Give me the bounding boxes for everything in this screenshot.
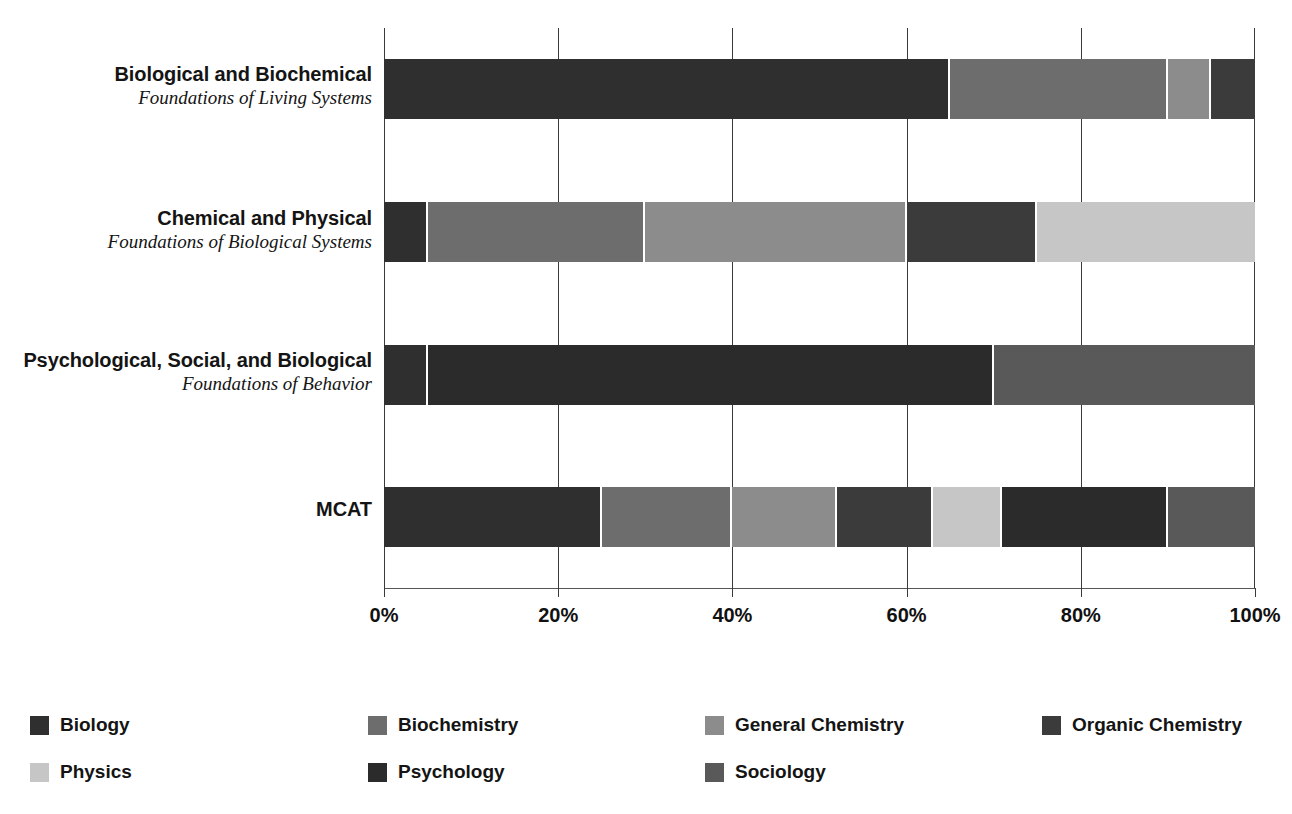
row-label-2-line2: Foundations of Behavior: [0, 372, 372, 395]
legend-item-biochemistry[interactable]: Biochemistry: [368, 706, 518, 744]
legend-swatch-sociology: [705, 763, 724, 782]
bar-segment-organic-chemistry: [837, 487, 933, 547]
stacked-bar-chart: Biological and Biochemical Foundations o…: [0, 0, 1292, 814]
x-tick-label-20: 20%: [538, 604, 578, 627]
bar-segment-biology: [384, 202, 428, 262]
chart-legend: Biology Biochemistry General Chemistry O…: [30, 706, 1270, 796]
stacked-bar-1: [384, 202, 1255, 262]
x-tick-20: [558, 588, 559, 597]
row-label-0: Biological and Biochemical Foundations o…: [0, 62, 372, 110]
x-tick-label-0: 0%: [370, 604, 399, 627]
legend-label-general-chemistry: General Chemistry: [735, 714, 904, 736]
bar-segment-sociology: [994, 345, 1255, 405]
bar-segment-organic-chemistry: [1211, 59, 1255, 119]
bar-segment-biochemistry: [950, 59, 1168, 119]
bar-segment-general-chemistry: [1168, 59, 1212, 119]
bar-row-mcat: [384, 487, 1255, 547]
bar-segment-psychology: [428, 345, 994, 405]
bar-segment-biology: [384, 345, 428, 405]
bar-segment-general-chemistry: [645, 202, 906, 262]
row-label-2-line1: Psychological, Social, and Biological: [0, 348, 372, 372]
x-tick-0: [384, 588, 385, 597]
bar-segment-biology: [384, 59, 950, 119]
x-tick-60: [907, 588, 908, 597]
row-label-3: MCAT: [0, 497, 372, 521]
legend-label-biology: Biology: [60, 714, 130, 736]
legend-item-physics[interactable]: Physics: [30, 753, 132, 791]
legend-row-1: Biology Biochemistry General Chemistry O…: [30, 706, 1270, 744]
legend-row-2: Physics Psychology Sociology: [30, 753, 1270, 791]
row-label-1-line2: Foundations of Biological Systems: [0, 230, 372, 253]
legend-item-biology[interactable]: Biology: [30, 706, 130, 744]
row-label-1-line1: Chemical and Physical: [0, 206, 372, 230]
bar-row-psychological: [384, 345, 1255, 405]
legend-item-psychology[interactable]: Psychology: [368, 753, 505, 791]
bar-segment-organic-chemistry: [907, 202, 1038, 262]
stacked-bar-3: [384, 487, 1255, 547]
legend-label-organic-chemistry: Organic Chemistry: [1072, 714, 1242, 736]
stacked-bar-2: [384, 345, 1255, 405]
x-tick-label-80: 80%: [1061, 604, 1101, 627]
row-label-2: Psychological, Social, and Biological Fo…: [0, 348, 372, 396]
legend-item-organic-chemistry[interactable]: Organic Chemistry: [1042, 706, 1242, 744]
x-tick-40: [732, 588, 733, 597]
legend-swatch-organic-chemistry: [1042, 716, 1061, 735]
bar-segment-physics: [1037, 202, 1255, 262]
x-tick-80: [1081, 588, 1082, 597]
row-label-3-line1: MCAT: [0, 497, 372, 521]
row-label-0-line2: Foundations of Living Systems: [0, 86, 372, 109]
plot-area: [384, 28, 1255, 588]
bar-segment-sociology: [1168, 487, 1255, 547]
bar-segment-biochemistry: [602, 487, 733, 547]
x-tick-label-60: 60%: [887, 604, 927, 627]
legend-swatch-psychology: [368, 763, 387, 782]
legend-item-general-chemistry[interactable]: General Chemistry: [705, 706, 904, 744]
category-labels: Biological and Biochemical Foundations o…: [0, 0, 372, 588]
bar-row-biological: [384, 59, 1255, 119]
stacked-bar-0: [384, 59, 1255, 119]
x-axis-line: [384, 588, 1256, 589]
legend-swatch-general-chemistry: [705, 716, 724, 735]
bar-segment-general-chemistry: [732, 487, 837, 547]
bar-row-chemical: [384, 202, 1255, 262]
x-tick-100: [1255, 588, 1256, 597]
legend-swatch-biochemistry: [368, 716, 387, 735]
legend-item-sociology[interactable]: Sociology: [705, 753, 826, 791]
legend-swatch-biology: [30, 716, 49, 735]
row-label-0-line1: Biological and Biochemical: [0, 62, 372, 86]
bar-segment-physics: [933, 487, 1003, 547]
bar-segment-biology: [384, 487, 602, 547]
legend-label-psychology: Psychology: [398, 761, 505, 783]
legend-label-sociology: Sociology: [735, 761, 826, 783]
legend-label-biochemistry: Biochemistry: [398, 714, 518, 736]
row-label-1: Chemical and Physical Foundations of Bio…: [0, 206, 372, 254]
bar-segment-biochemistry: [428, 202, 646, 262]
legend-swatch-physics: [30, 763, 49, 782]
x-tick-label-100: 100%: [1229, 604, 1280, 627]
x-tick-label-40: 40%: [712, 604, 752, 627]
legend-label-physics: Physics: [60, 761, 132, 783]
bar-segment-psychology: [1002, 487, 1167, 547]
